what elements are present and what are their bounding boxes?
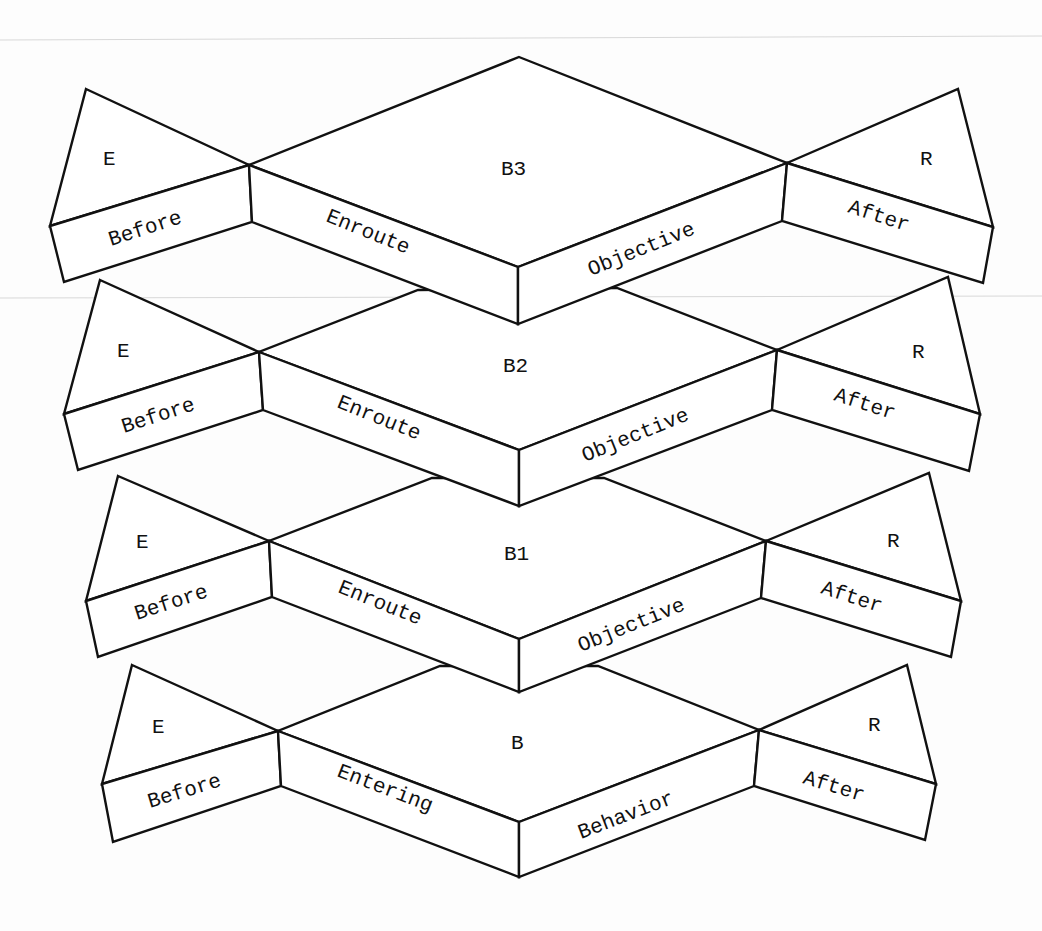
tier-b1-center-label: B1: [504, 543, 529, 566]
tier-b1-r-label: R: [887, 530, 900, 553]
tier-b1-e-label: E: [136, 531, 149, 554]
tier-b-r-label: R: [868, 714, 881, 737]
tier-b3-r-label: R: [920, 148, 933, 171]
tier-b2-r-label: R: [912, 341, 925, 364]
stacked-tiers-diagram: E B R Before Entering Behavior After E B…: [0, 0, 1042, 931]
tier-b: E B R Before Entering Behavior After: [102, 665, 936, 877]
tier-b2-center-label: B2: [503, 355, 528, 378]
tier-b2-e-label: E: [117, 340, 130, 363]
scan-artifact-line: [0, 36, 1042, 40]
tier-b1: E B1 R Before Enroute Objective After: [86, 473, 961, 692]
tier-b3-center-label: B3: [501, 158, 526, 181]
tier-b3-e-label: E: [103, 148, 116, 171]
tier-b3: E B3 R Before Enroute Objective After: [50, 57, 993, 324]
tier-b-e-label: E: [152, 716, 165, 739]
tier-b-center-label: B: [511, 732, 524, 755]
